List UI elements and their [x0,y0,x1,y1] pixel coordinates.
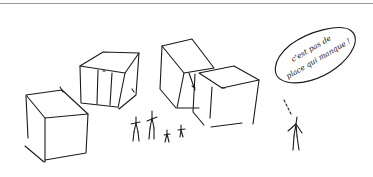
stick-figure [147,111,157,139]
speech-bubble: c'est pas de place qui manque ! [275,28,355,83]
speaker-stick-figure [288,117,302,150]
stick-figure [178,125,185,137]
bubble-tail [284,100,291,114]
cube-right [199,66,259,127]
stick-figure [164,130,170,142]
cube-tall [160,39,214,125]
stick-figure [131,117,140,141]
stick-figures-group [131,111,185,142]
sketch-canvas: c'est pas de place qui manque ! [0,0,373,177]
cube-middle [80,52,139,109]
cube-left [25,87,88,162]
